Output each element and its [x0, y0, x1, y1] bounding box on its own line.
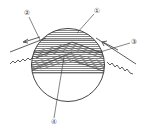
sphere-layer-diagram: ① ② ③ ④	[0, 0, 144, 135]
label-4: ④	[51, 118, 57, 126]
label-3: ③	[131, 38, 137, 46]
label-2: ②	[24, 9, 30, 17]
right-zigzag-icon	[107, 62, 133, 74]
hatched-layers	[28, 27, 108, 73]
label-1: ①	[94, 7, 100, 15]
left-zigzag-icon	[10, 57, 33, 64]
